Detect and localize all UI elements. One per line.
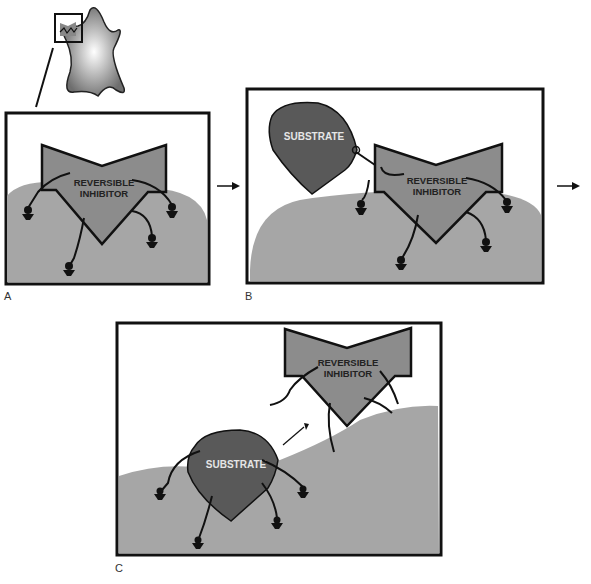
- inhibitor-label-line2: INHIBITOR: [413, 186, 462, 197]
- panel-b: SUBSTRATE REVERSIBLE INHIBITOR B: [245, 89, 543, 302]
- inhibitor-label-line1: REVERSIBLE: [407, 175, 468, 186]
- panel-label-b: B: [245, 290, 252, 302]
- substrate-label: SUBSTRATE: [206, 459, 267, 470]
- cell-icon: [36, 8, 124, 107]
- figure-canvas: REVERSIBLE INHIBITOR A SUBSTRATE REVERSI…: [0, 0, 591, 584]
- arrow-right-icon: [217, 182, 240, 190]
- inhibitor-label-line1: REVERSIBLE: [318, 357, 379, 368]
- inhibitor-label-line2: INHIBITOR: [324, 368, 373, 379]
- panel-label-a: A: [4, 290, 12, 302]
- panel-label-c: C: [115, 562, 123, 574]
- arrow-right-icon: [557, 182, 580, 190]
- substrate-label: SUBSTRATE: [284, 131, 345, 142]
- inhibitor-label-line2: INHIBITOR: [80, 188, 129, 199]
- inhibitor-label-line1: REVERSIBLE: [74, 177, 135, 188]
- panel-a: REVERSIBLE INHIBITOR A: [4, 113, 209, 302]
- panel-c: SUBSTRATE REVERSIBLE INHIBITOR C: [115, 323, 441, 574]
